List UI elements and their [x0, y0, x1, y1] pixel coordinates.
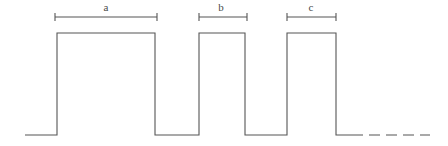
dimension-a-label: a [104, 1, 109, 13]
dimension-annotations: abc [55, 1, 336, 21]
waveform-canvas: abc [0, 0, 448, 146]
dimension-c-label: c [309, 1, 314, 13]
dimension-a: a [55, 1, 157, 21]
pulse-waveform-trace [25, 33, 430, 135]
dimension-c: c [287, 1, 336, 21]
dimension-b-label: b [218, 1, 224, 13]
waveform-figure: abc [0, 0, 448, 146]
waveform-line [25, 33, 352, 135]
dimension-b: b [199, 1, 247, 21]
